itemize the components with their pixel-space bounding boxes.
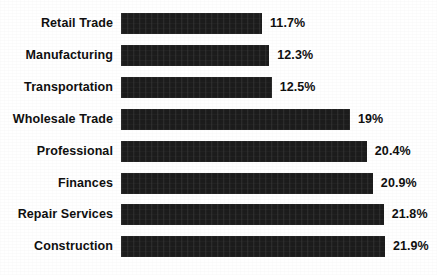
bar bbox=[121, 236, 385, 257]
category-label: Manufacturing bbox=[0, 45, 113, 66]
bar-row: Finances20.9% bbox=[0, 173, 437, 194]
category-label: Wholesale Trade bbox=[0, 109, 113, 130]
bar-value-label: 11.7% bbox=[270, 13, 305, 34]
bar-row: Transportation12.5% bbox=[0, 77, 437, 98]
category-label: Repair Services bbox=[0, 204, 113, 225]
bar-value-label: 21.8% bbox=[392, 204, 428, 225]
category-label: Construction bbox=[0, 236, 113, 257]
bar-value-label: 12.3% bbox=[277, 45, 313, 66]
bar-value-label: 20.4% bbox=[375, 141, 411, 162]
bar-row: Construction21.9% bbox=[0, 236, 437, 257]
bar bbox=[121, 141, 367, 162]
bar-row: Wholesale Trade19% bbox=[0, 109, 437, 130]
chart-plot-area: Retail Trade11.7%Manufacturing12.3%Trans… bbox=[0, 0, 437, 275]
bar-value-label: 12.5% bbox=[280, 77, 316, 98]
bar bbox=[121, 13, 262, 34]
bar-row: Retail Trade11.7% bbox=[0, 13, 437, 34]
category-label: Professional bbox=[0, 141, 113, 162]
bar-value-label: 20.9% bbox=[381, 173, 417, 194]
bar bbox=[121, 77, 272, 98]
bar-value-label: 21.9% bbox=[393, 236, 429, 257]
category-label: Retail Trade bbox=[0, 13, 113, 34]
bar bbox=[121, 45, 269, 66]
bar-row: Professional20.4% bbox=[0, 141, 437, 162]
bar-row: Manufacturing12.3% bbox=[0, 45, 437, 66]
bar bbox=[121, 109, 350, 130]
bar-value-label: 19% bbox=[358, 109, 383, 130]
bar bbox=[121, 204, 384, 225]
bar-row: Repair Services21.8% bbox=[0, 204, 437, 225]
category-label: Finances bbox=[0, 173, 113, 194]
bar bbox=[121, 173, 373, 194]
bar-chart: Retail Trade11.7%Manufacturing12.3%Trans… bbox=[0, 0, 437, 275]
category-label: Transportation bbox=[0, 77, 113, 98]
